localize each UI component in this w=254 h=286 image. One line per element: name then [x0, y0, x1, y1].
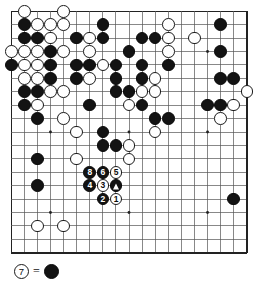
black-stone[interactable] — [227, 193, 240, 206]
black-stone[interactable] — [227, 72, 240, 85]
black-stone[interactable] — [70, 32, 83, 45]
white-stone[interactable] — [227, 99, 240, 112]
white-stone[interactable] — [162, 18, 175, 31]
white-stone[interactable] — [97, 59, 110, 72]
black-stone[interactable] — [136, 59, 149, 72]
marked-stone-triangle[interactable] — [110, 179, 123, 192]
white-stone[interactable] — [57, 112, 70, 125]
black-stone[interactable] — [214, 72, 227, 85]
black-stone[interactable] — [31, 112, 44, 125]
caption-equals-sign: = — [32, 264, 41, 279]
black-stone[interactable] — [44, 72, 57, 85]
caption-move-number: 7 — [15, 265, 28, 278]
caption: 7 = — [14, 261, 59, 281]
black-stone[interactable] — [214, 18, 227, 31]
black-stone[interactable] — [136, 72, 149, 85]
black-stone[interactable] — [31, 153, 44, 166]
black-stone[interactable] — [110, 72, 123, 85]
black-stone[interactable] — [97, 18, 110, 31]
black-stone[interactable] — [18, 32, 31, 45]
white-stone[interactable] — [123, 139, 136, 152]
white-stone[interactable] — [57, 85, 70, 98]
black-stone[interactable] — [97, 139, 110, 152]
move-number-label: 1 — [111, 194, 122, 205]
black-stone[interactable] — [123, 45, 136, 58]
white-stone[interactable] — [18, 45, 31, 58]
white-stone[interactable] — [149, 72, 162, 85]
white-stone[interactable] — [31, 72, 44, 85]
black-stone[interactable] — [18, 18, 31, 31]
black-stone[interactable] — [149, 112, 162, 125]
black-stone[interactable] — [110, 59, 123, 72]
white-stone[interactable] — [162, 45, 175, 58]
black-stone[interactable] — [136, 99, 149, 112]
move-stone-1[interactable]: 1 — [110, 193, 123, 206]
white-stone[interactable] — [31, 99, 44, 112]
move-stone-5[interactable]: 5 — [110, 166, 123, 179]
black-stone[interactable] — [83, 99, 96, 112]
black-stone[interactable] — [123, 85, 136, 98]
black-stone[interactable] — [70, 72, 83, 85]
white-stone[interactable] — [31, 45, 44, 58]
white-stone[interactable] — [31, 59, 44, 72]
caption-move-stone: 7 — [14, 264, 29, 279]
white-stone[interactable] — [57, 5, 70, 18]
white-stone[interactable] — [162, 32, 175, 45]
white-stone[interactable] — [149, 85, 162, 98]
black-stone[interactable] — [70, 59, 83, 72]
white-stone[interactable] — [83, 72, 96, 85]
white-stone[interactable] — [5, 45, 18, 58]
white-stone[interactable] — [18, 72, 31, 85]
move-stone-3[interactable]: 3 — [97, 179, 110, 192]
go-board[interactable]: 1234568 — [7, 7, 251, 257]
move-number-label: 5 — [111, 167, 122, 178]
white-stone[interactable] — [57, 220, 70, 233]
black-stone[interactable] — [18, 85, 31, 98]
white-stone[interactable] — [31, 220, 44, 233]
black-stone[interactable] — [162, 112, 175, 125]
black-stone[interactable] — [136, 32, 149, 45]
white-stone[interactable] — [136, 85, 149, 98]
white-stone[interactable] — [214, 112, 227, 125]
black-stone[interactable] — [110, 139, 123, 152]
white-stone[interactable] — [31, 18, 44, 31]
white-stone[interactable] — [57, 45, 70, 58]
white-stone[interactable] — [188, 32, 201, 45]
caption-target-stone — [44, 264, 59, 279]
white-stone[interactable] — [70, 153, 83, 166]
black-stone[interactable] — [201, 99, 214, 112]
black-stone[interactable] — [31, 85, 44, 98]
white-stone[interactable] — [44, 18, 57, 31]
white-stone[interactable] — [44, 32, 57, 45]
white-stone[interactable] — [241, 85, 254, 98]
black-stone[interactable] — [97, 126, 110, 139]
black-stone[interactable] — [44, 45, 57, 58]
black-stone[interactable] — [31, 32, 44, 45]
white-stone[interactable] — [123, 153, 136, 166]
black-stone[interactable] — [31, 179, 44, 192]
white-stone[interactable] — [83, 45, 96, 58]
black-stone[interactable] — [18, 99, 31, 112]
white-stone[interactable] — [83, 32, 96, 45]
black-stone[interactable] — [162, 59, 175, 72]
black-stone[interactable] — [83, 59, 96, 72]
black-stone[interactable] — [5, 59, 18, 72]
black-stone[interactable] — [214, 45, 227, 58]
white-stone[interactable] — [70, 126, 83, 139]
move-stone-4[interactable]: 4 — [83, 179, 96, 192]
white-stone[interactable] — [18, 59, 31, 72]
triangle-icon — [113, 183, 119, 189]
black-stone[interactable] — [110, 85, 123, 98]
white-stone[interactable] — [149, 126, 162, 139]
black-stone[interactable] — [44, 59, 57, 72]
white-stone[interactable] — [44, 85, 57, 98]
white-stone[interactable] — [57, 18, 70, 31]
move-stone-2[interactable]: 2 — [97, 193, 110, 206]
white-stone[interactable] — [123, 99, 136, 112]
white-stone[interactable] — [18, 5, 31, 18]
black-stone[interactable] — [149, 32, 162, 45]
move-stone-8[interactable]: 8 — [83, 166, 96, 179]
black-stone[interactable] — [97, 32, 110, 45]
black-stone[interactable] — [214, 99, 227, 112]
move-stone-6[interactable]: 6 — [97, 166, 110, 179]
